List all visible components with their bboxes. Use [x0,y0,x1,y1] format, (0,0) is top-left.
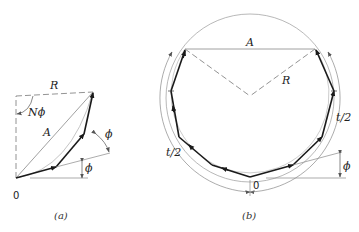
label-phi-upper: ϕ [105,128,113,141]
label-R: R [49,79,58,92]
arrow-l1 [222,168,228,170]
label-R-b: R [281,74,290,87]
phasor-2 [56,134,84,167]
arrow-l3 [173,106,174,112]
caption-a: (a) [54,210,68,221]
phasor-r1 [250,165,293,177]
label-origin: 0 [13,190,19,201]
extension-line [56,153,110,167]
caption-b: (b) [242,210,256,221]
label-phi-lower: ϕ [85,162,93,175]
label-N-phi: Nϕ [27,106,46,119]
phasor-1 [16,167,56,178]
inner-arc [171,49,329,173]
phasor-r4 [316,50,334,91]
label-t-half-right: t/2 [336,111,351,124]
figure-b: A R t/2 t/2 ϕ 0 (b) [160,14,351,221]
radius-right [250,49,315,96]
label-t-half-left: t/2 [166,146,181,159]
label-A: A [42,126,51,139]
label-origin-b: 0 [253,180,259,191]
phasor-diagram: R Nϕ A ϕ ϕ 0 (a) [0,0,359,232]
radius-dashed-line [16,92,93,96]
resultant-line [16,92,93,178]
figure-a: R Nϕ A ϕ ϕ 0 (a) [13,79,113,221]
radius-left [185,49,250,96]
label-A-b: A [245,36,254,49]
label-phi-b: ϕ [343,160,351,173]
